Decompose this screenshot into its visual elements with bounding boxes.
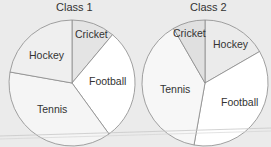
class1-label-cricket: Cricket [75,28,108,40]
class2-label-tennis: Tennis [160,83,190,95]
class1-label-tennis: Tennis [37,103,67,115]
class2-label-hockey: Hockey [213,38,249,50]
class1-label-football: Football [89,75,126,87]
class2-label-football: Football [221,96,258,108]
class2-label-cricket: Cricket [173,27,206,39]
class1-label-hockey: Hockey [29,49,65,61]
pie-charts: Cricket Hockey Football Tennis Cricket H… [0,0,271,147]
